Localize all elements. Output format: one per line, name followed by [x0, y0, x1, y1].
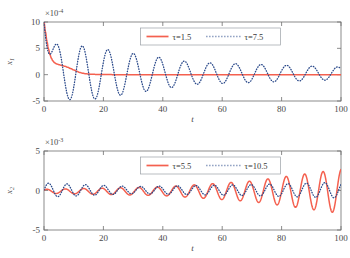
legend-label-1: τ=1.5 [173, 32, 192, 42]
x-tick-label: 100 [334, 104, 348, 114]
y-axis-exponent: ×10-3 [45, 137, 63, 147]
x-tick-label: 0 [42, 233, 47, 243]
x-tick-label: 60 [218, 104, 228, 114]
legend-label-2: τ=7.5 [245, 32, 264, 42]
x-tick-label: 20 [99, 233, 109, 243]
y-tick-label: -5 [33, 96, 41, 106]
y-tick-label: 5 [36, 146, 41, 156]
x-tick-label: 60 [218, 233, 228, 243]
x-tick-label: 40 [158, 233, 168, 243]
legend-label-2: τ=10.5 [245, 161, 268, 171]
x-tick-label: 100 [334, 233, 348, 243]
y-axis-label-group: x1 [4, 58, 15, 66]
y-tick-label: 0 [36, 70, 41, 80]
y-tick-label: -5 [33, 225, 41, 235]
top-plot-canvas: 020406080100-50510×10-4x1tτ=1.5τ=7.5 [0, 0, 350, 129]
y-axis-label: x1 [4, 58, 15, 66]
legend-label-1: τ=5.5 [173, 161, 192, 171]
x-tick-label: 20 [99, 104, 109, 114]
y-tick-label: 10 [31, 17, 41, 27]
x-tick-label: 40 [158, 104, 168, 114]
x-tick-label: 80 [277, 233, 287, 243]
y-axis-label: x2 [4, 187, 15, 195]
subplot-top: 020406080100-50510×10-4x1tτ=1.5τ=7.5 [0, 0, 350, 129]
y-tick-label: 0 [36, 186, 41, 196]
x-axis-label: t [191, 114, 194, 124]
y-axis-label-group: x2 [4, 187, 15, 195]
y-axis-exponent: ×10-4 [45, 8, 63, 18]
x-tick-label: 80 [277, 104, 287, 114]
figure-container: 020406080100-50510×10-4x1tτ=1.5τ=7.5 020… [0, 0, 350, 258]
x-tick-label: 0 [42, 104, 47, 114]
bottom-plot-canvas: 020406080100-505×10-3x2tτ=5.5τ=10.5 [0, 129, 350, 258]
y-tick-label: 5 [36, 43, 41, 53]
subplot-bottom: 020406080100-505×10-3x2tτ=5.5τ=10.5 [0, 129, 350, 258]
x-axis-label: t [191, 243, 194, 253]
